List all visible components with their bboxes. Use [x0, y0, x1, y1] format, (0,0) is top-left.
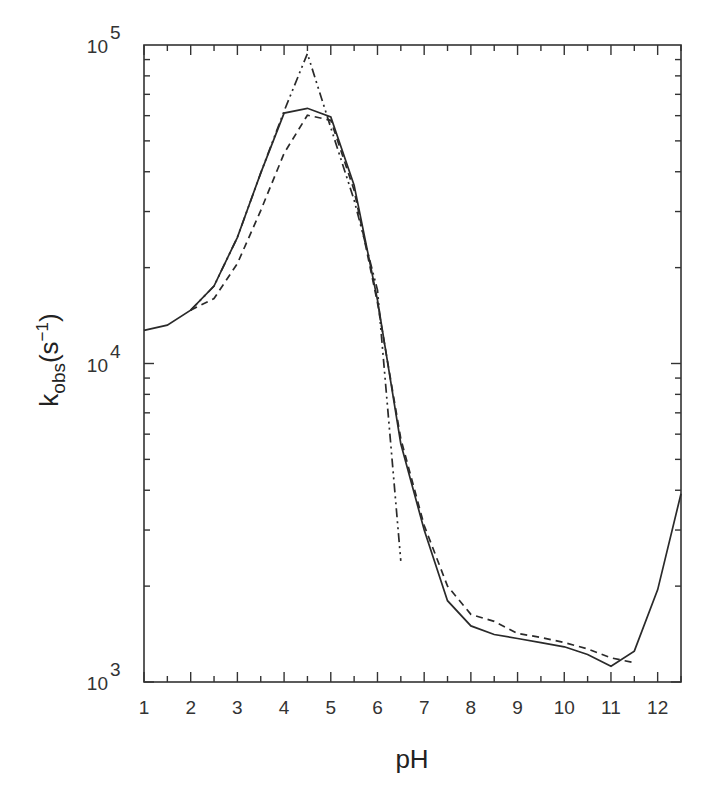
x-tick-label: 10 [554, 697, 575, 718]
series-solid [144, 108, 681, 666]
x-tick-label: 5 [325, 697, 336, 718]
kobs-vs-ph-chart: 123456789101112 103104105 pH kobs(s−1) [0, 0, 711, 792]
y-tick-label-exponent: 3 [110, 659, 121, 680]
plot-border [144, 45, 681, 682]
y-title-sub: obs [48, 363, 69, 394]
x-axis-ticks [144, 45, 681, 682]
x-tick-label: 11 [601, 697, 621, 718]
y-axis-tick-labels: 103104105 [87, 22, 121, 694]
x-tick-label: 2 [185, 697, 196, 718]
x-tick-label: 9 [512, 697, 523, 718]
data-series [144, 54, 681, 667]
x-tick-label: 7 [419, 697, 430, 718]
y-tick-label: 10 [87, 673, 108, 694]
y-title-base: k [34, 393, 64, 407]
plot-frame [144, 45, 681, 682]
y-title-paren: (s [34, 341, 64, 363]
x-axis-title: pH [395, 744, 428, 774]
x-tick-label: 12 [647, 697, 668, 718]
x-tick-label: 3 [232, 697, 243, 718]
y-tick-label: 10 [87, 36, 108, 57]
series-dashed [191, 115, 635, 663]
x-tick-label: 1 [139, 697, 150, 718]
series-dash-dot-dot [191, 54, 401, 561]
y-tick-label: 10 [87, 355, 108, 376]
y-tick-label-exponent: 5 [110, 22, 121, 43]
x-tick-label: 8 [466, 697, 477, 718]
x-tick-label: 6 [372, 697, 383, 718]
y-axis-ticks [144, 60, 681, 682]
y-title-close: ) [34, 313, 64, 322]
y-title-sup: −1 [33, 322, 52, 341]
y-tick-label-exponent: 4 [110, 341, 121, 362]
x-tick-label: 4 [279, 697, 290, 718]
x-axis-tick-labels: 123456789101112 [139, 697, 669, 718]
y-axis-title: kobs(s−1) [33, 313, 69, 406]
